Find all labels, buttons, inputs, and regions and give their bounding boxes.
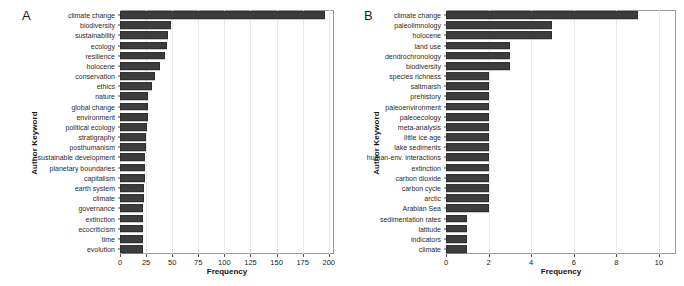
bar[interactable] [446, 21, 552, 29]
bar-row[interactable]: nature [120, 91, 334, 101]
bar-row[interactable]: holocene [120, 61, 334, 71]
bar-row[interactable]: planetary boundaries [120, 163, 334, 173]
bar[interactable] [446, 103, 489, 111]
bar[interactable] [446, 62, 510, 70]
bar[interactable] [446, 204, 489, 212]
bar[interactable] [446, 113, 489, 121]
bar[interactable] [120, 215, 143, 223]
bar-row[interactable]: climate [120, 193, 334, 203]
bar-row[interactable]: prehistory [446, 91, 676, 101]
bar-row[interactable]: ecology [120, 41, 334, 51]
bar[interactable] [446, 215, 467, 223]
bar[interactable] [120, 133, 146, 141]
bar-row[interactable]: ethics [120, 81, 334, 91]
bar-row[interactable]: indicators [446, 234, 676, 244]
bar-row[interactable]: time [120, 234, 334, 244]
bar-row[interactable]: carbon cycle [446, 183, 676, 193]
bar-row[interactable]: sustainable development [120, 152, 334, 162]
bar[interactable] [120, 103, 148, 111]
bar[interactable] [120, 32, 168, 40]
bar-row[interactable]: global change [120, 102, 334, 112]
bar-row[interactable]: conservation [120, 71, 334, 81]
bar-row[interactable]: paleolimnology [446, 20, 676, 30]
bar-row[interactable]: land use [446, 41, 676, 51]
bar-row[interactable]: sedimentation rates [446, 213, 676, 223]
bar-row[interactable]: resilience [120, 51, 334, 61]
bar[interactable] [120, 52, 165, 60]
bar-row[interactable]: sustainability [120, 30, 334, 40]
bar[interactable] [446, 42, 510, 50]
bar-row[interactable]: extinction [120, 213, 334, 223]
bar-row[interactable]: political ecology [120, 122, 334, 132]
category-label: global change [71, 103, 120, 110]
bar-row[interactable]: meta-analysis [446, 122, 676, 132]
bar-row[interactable]: dendrochronology [446, 51, 676, 61]
bar-row[interactable]: lake sediments [446, 142, 676, 152]
bar-row[interactable]: climate change [120, 10, 334, 20]
bar[interactable] [446, 154, 489, 162]
bar[interactable] [120, 194, 144, 202]
bar[interactable] [446, 93, 489, 101]
bar[interactable] [446, 174, 489, 182]
bar[interactable] [446, 184, 489, 192]
bar[interactable] [446, 133, 489, 141]
bar[interactable] [120, 123, 147, 131]
bar-row[interactable]: capitalism [120, 173, 334, 183]
bar[interactable] [120, 82, 152, 90]
bar-row[interactable]: human-env. interactions [446, 152, 676, 162]
bar[interactable] [120, 154, 145, 162]
bar-row[interactable]: latitude [446, 224, 676, 234]
bar[interactable] [446, 225, 467, 233]
bar[interactable] [120, 93, 148, 101]
bar-row[interactable]: environment [120, 112, 334, 122]
category-label: land use [415, 42, 446, 49]
bar-row[interactable]: stratigraphy [120, 132, 334, 142]
bar[interactable] [120, 143, 146, 151]
bar-row[interactable]: biodiversity [446, 61, 676, 71]
bar[interactable] [120, 184, 144, 192]
bar[interactable] [120, 245, 143, 253]
bar[interactable] [446, 143, 489, 151]
bar[interactable] [120, 204, 143, 212]
bar[interactable] [446, 72, 489, 80]
bar[interactable] [120, 235, 143, 243]
bar-row[interactable]: saltmarsh [446, 81, 676, 91]
bar-row[interactable]: climate [446, 244, 676, 254]
bar[interactable] [446, 194, 489, 202]
category-label: climate change [394, 12, 446, 19]
bar-row[interactable]: carbon dioxide [446, 173, 676, 183]
bar-row[interactable]: biodiversity [120, 20, 334, 30]
bar[interactable] [446, 82, 489, 90]
bar-row[interactable]: governance [120, 203, 334, 213]
bar[interactable] [120, 72, 155, 80]
bar[interactable] [120, 225, 143, 233]
bar[interactable] [446, 123, 489, 131]
bar-row[interactable]: arctic [446, 193, 676, 203]
x-tick-mark [198, 254, 199, 257]
bar-row[interactable]: ecocriticism [120, 224, 334, 234]
bar[interactable] [446, 235, 467, 243]
bar-row[interactable]: Arabian Sea [446, 203, 676, 213]
bar-row[interactable]: holocene [446, 30, 676, 40]
bar-row[interactable]: little ice age [446, 132, 676, 142]
bar[interactable] [446, 245, 467, 253]
bar[interactable] [120, 21, 171, 29]
bar[interactable] [120, 174, 145, 182]
bar-row[interactable]: evolution [120, 244, 334, 254]
bar[interactable] [120, 113, 148, 121]
bar-row[interactable]: paleoecology [446, 112, 676, 122]
bar[interactable] [120, 164, 145, 172]
bar[interactable] [120, 11, 325, 19]
bar-row[interactable]: climate change [446, 10, 676, 20]
bar-row[interactable]: species richness [446, 71, 676, 81]
bar[interactable] [446, 164, 489, 172]
bar-row[interactable]: paleoenvironment [446, 102, 676, 112]
bar[interactable] [120, 62, 160, 70]
bar[interactable] [120, 42, 167, 50]
bar-row[interactable]: extinction [446, 163, 676, 173]
bar-row[interactable]: posthumanism [120, 142, 334, 152]
bar-row[interactable]: earth system [120, 183, 334, 193]
bar[interactable] [446, 32, 552, 40]
bar[interactable] [446, 11, 638, 19]
bar[interactable] [446, 52, 510, 60]
